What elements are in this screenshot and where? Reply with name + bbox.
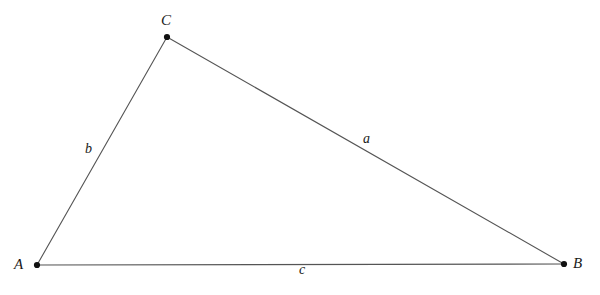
side-label-c: c: [299, 263, 305, 277]
vertex-label-a: A: [14, 257, 23, 272]
triangle-diagram: A B C a b c: [0, 0, 600, 295]
vertex-point-c: [164, 34, 170, 40]
vertex-label-c: C: [161, 13, 171, 28]
side-label-a: a: [363, 132, 370, 146]
side-a-line: [167, 37, 564, 264]
side-label-b: b: [85, 142, 92, 156]
vertex-label-b: B: [573, 256, 582, 271]
vertex-point-a: [34, 262, 40, 268]
vertex-point-b: [561, 261, 567, 267]
side-b-line: [37, 37, 167, 265]
